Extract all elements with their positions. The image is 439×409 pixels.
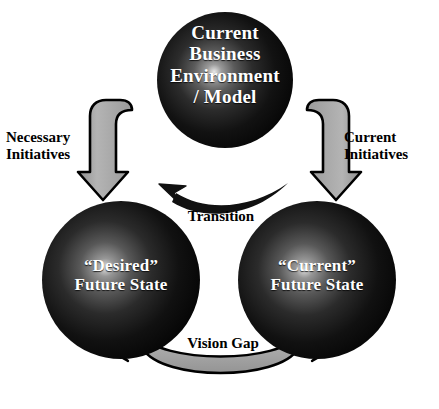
transition-arrow [159, 183, 288, 214]
diagram-graphics [0, 0, 439, 409]
current-initiatives-arrow [307, 100, 361, 200]
left-sphere [42, 201, 200, 359]
necessary-initiatives-arrow [78, 100, 132, 200]
top-sphere [157, 12, 293, 148]
right-sphere [238, 201, 396, 359]
diagram-canvas: Current Business Environment / Model “De… [0, 0, 439, 409]
